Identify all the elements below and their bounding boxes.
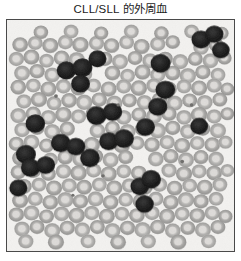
figure-container: CLL/SLL 的外周血 xyxy=(0,0,241,261)
figure-caption: CLL/SLL 的外周血 xyxy=(0,1,241,17)
peripheral-blood-smear-image xyxy=(7,20,234,251)
film-grain-overlay xyxy=(7,20,234,251)
micrograph-panel xyxy=(6,19,235,252)
